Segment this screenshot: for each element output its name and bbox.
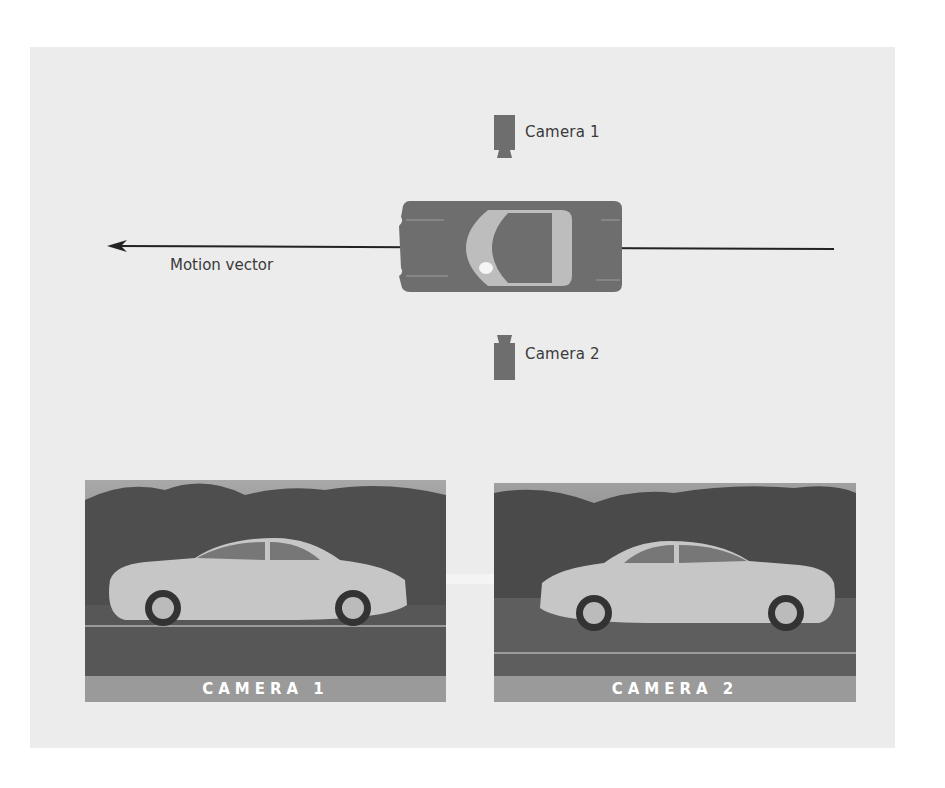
camera-2-label: Camera 2	[525, 345, 600, 363]
camera-1-label: Camera 1	[525, 123, 600, 141]
camera-2-icon	[490, 333, 520, 383]
camera-2-photo: CAMERA 2	[494, 483, 856, 702]
camera-1-photo-label: CAMERA 1	[85, 676, 446, 702]
camera-2-photo-label: CAMERA 2	[494, 676, 856, 702]
motion-vector-label: Motion vector	[170, 256, 273, 274]
car-top-view-icon	[396, 198, 626, 296]
camera-1-icon	[490, 112, 520, 162]
camera-1-photo: CAMERA 1	[85, 480, 446, 702]
